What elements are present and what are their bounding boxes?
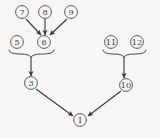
node-label: 12 xyxy=(132,37,142,47)
graph-node[interactable]: 8 xyxy=(39,6,52,19)
graph-node[interactable]: 7 xyxy=(16,6,29,19)
node-label: 10 xyxy=(121,80,131,90)
group-brace xyxy=(9,50,54,58)
graph-diagram: 7895611123101 xyxy=(0,0,160,138)
node-label: 5 xyxy=(14,37,19,47)
graph-node[interactable]: 11 xyxy=(105,36,118,49)
graph-node[interactable]: 6 xyxy=(38,36,51,49)
node-label: 6 xyxy=(41,37,46,47)
node-label: 11 xyxy=(106,37,116,47)
graph-node[interactable]: 3 xyxy=(25,77,38,90)
graph-node[interactable]: 12 xyxy=(131,36,144,49)
node-label: 3 xyxy=(28,78,33,88)
braces-layer xyxy=(9,50,146,58)
node-label: 9 xyxy=(68,7,73,17)
graph-edge xyxy=(26,19,41,35)
graph-edge xyxy=(50,19,67,35)
graph-node[interactable]: 9 xyxy=(65,6,78,19)
graph-node[interactable]: 10 xyxy=(120,79,133,92)
graph-node[interactable]: 5 xyxy=(11,36,24,49)
graph-edge xyxy=(36,89,73,116)
graph-edge xyxy=(88,91,121,116)
graph-node[interactable]: 1 xyxy=(74,114,87,127)
graph-canvas: 7895611123101 xyxy=(0,0,160,138)
edges-layer xyxy=(26,19,124,116)
node-label: 7 xyxy=(19,7,24,17)
node-label: 8 xyxy=(42,7,47,17)
group-brace xyxy=(103,50,146,58)
node-label: 1 xyxy=(77,115,82,125)
